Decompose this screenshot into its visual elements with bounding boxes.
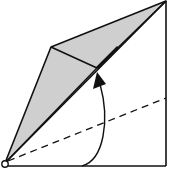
diagonal-edge <box>5 1 166 163</box>
fold-arrow <box>82 84 105 166</box>
arrowhead-icon <box>93 72 106 89</box>
pivot-point-icon <box>2 161 8 167</box>
origami-diagram <box>0 0 173 172</box>
